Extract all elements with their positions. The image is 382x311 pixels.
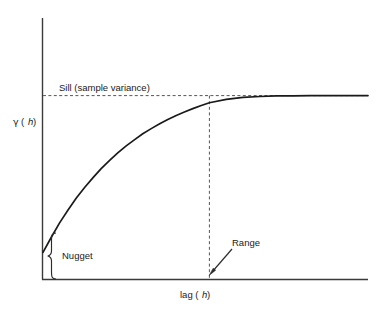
range-label: Range (232, 237, 260, 248)
x-axis-label-prefix: lag ( (180, 289, 199, 300)
x-axis-label-suffix: ) (207, 289, 210, 300)
chart-background (0, 0, 382, 311)
x-axis-label: lag ( h ) (180, 289, 210, 300)
sill-label: Sill (sample variance) (59, 82, 150, 93)
y-axis-label-symbol: γ (13, 116, 19, 127)
nugget-label: Nugget (62, 250, 93, 261)
variogram-chart: Sill (sample variance) Nugget Range γ ( … (0, 0, 382, 311)
y-axis-label-close: ) (33, 116, 36, 127)
semivariogram-figure: Sill (sample variance) Nugget Range γ ( … (0, 0, 382, 311)
